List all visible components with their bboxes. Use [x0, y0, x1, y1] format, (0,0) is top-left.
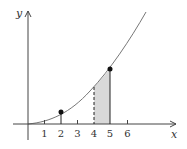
y-axis-label: y: [15, 7, 23, 20]
x-ticks: [45, 120, 128, 124]
tick-label-4: 4: [91, 128, 97, 139]
point-x5: [108, 67, 113, 72]
tick-label-2: 2: [58, 128, 64, 139]
x-axis-label: x: [171, 128, 178, 141]
tick-label-1: 1: [41, 128, 47, 139]
curve: [28, 12, 146, 124]
point-x2: [59, 110, 64, 115]
graph: 1 2 3 4 5 6 x y: [0, 0, 187, 149]
tick-label-5: 5: [107, 128, 113, 139]
tick-label-6: 6: [124, 128, 130, 139]
tick-label-3: 3: [74, 128, 80, 139]
